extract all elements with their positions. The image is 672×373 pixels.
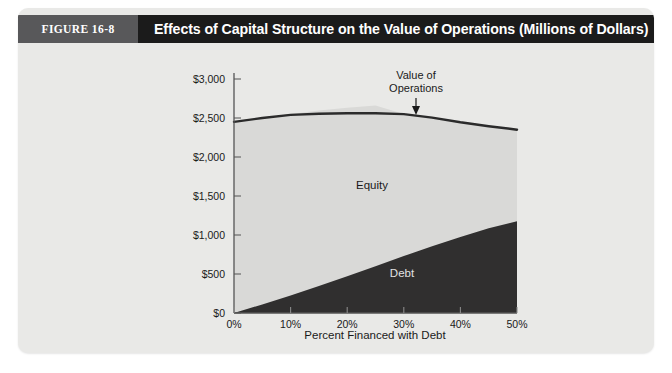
equity-series-label: Equity [356,179,388,191]
y-axis-tick-label: $2,000 [193,151,225,163]
figure-card: FIGURE 16-8 Effects of Capital Structure… [18,8,654,353]
x-axis-tick-label: 40% [450,318,471,330]
x-axis-tick-label: 10% [280,318,301,330]
x-axis-title: Percent Financed with Debt [304,329,446,341]
value-of-operations-annotation-line2: Operations [389,82,443,94]
figure-number-label: FIGURE 16-8 [41,23,114,35]
figure-title: Effects of Capital Structure on the Valu… [154,21,648,37]
y-axis-tick-label: $1,500 [193,190,225,202]
debt-series-label: Debt [390,267,415,279]
figure-number-block: FIGURE 16-8 [18,15,138,43]
y-axis-tick-label: $0 [213,307,225,319]
chart-plot-area: $0$500$1,000$1,500$2,000$2,500$3,000 0%1… [18,43,654,353]
y-axis-tick-label: $500 [202,268,226,280]
figure-header-bar: FIGURE 16-8 Effects of Capital Structure… [18,15,654,43]
y-axis-tick-label: $2,500 [193,112,225,124]
x-axis-tick-label: 50% [506,318,527,330]
x-axis-tick-label: 0% [226,318,241,330]
annotation-arrow-icon [412,106,420,115]
y-axis-tick-label: $1,000 [193,229,225,241]
y-axis-tick-label: $3,000 [193,73,225,85]
value-of-operations-annotation-line1: Value of [396,69,436,81]
area-chart: $0$500$1,000$1,500$2,000$2,500$3,000 0%1… [18,43,654,353]
